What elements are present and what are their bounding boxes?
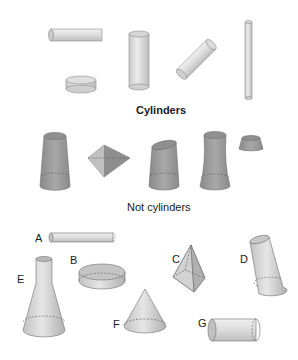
cylinder-tilted <box>175 38 218 81</box>
oblique-cut-cylinder-dark <box>149 138 179 190</box>
shape-f-cone <box>124 289 166 333</box>
cylinders-heading: Cylinders <box>136 104 186 116</box>
shape-e-flask <box>23 257 65 338</box>
label-f: F <box>113 318 120 330</box>
label-c: C <box>172 253 180 265</box>
label-g: G <box>198 317 207 329</box>
label-b: B <box>70 254 77 266</box>
waisted-cylinder-dark <box>200 132 230 191</box>
shape-b-disc <box>79 264 125 289</box>
bipyramid-dark <box>88 145 130 177</box>
label-a: A <box>35 232 42 244</box>
label-e: E <box>17 273 24 285</box>
label-d: D <box>240 253 248 265</box>
not-cylinders-heading: Not cylinders <box>127 201 191 213</box>
small-frustum-dark <box>239 136 263 151</box>
shape-d-tilted-frustum <box>249 234 287 296</box>
shapes-canvas <box>0 0 298 360</box>
cylinder-horizontal <box>49 29 103 41</box>
cylinder-disc <box>66 76 96 93</box>
shape-g-cylinder <box>208 319 260 341</box>
cylinder-vertical <box>129 31 149 90</box>
shape-a-long-cylinder <box>49 233 115 242</box>
frustum-dark <box>40 133 70 191</box>
cylinder-thin-vertical <box>245 21 252 100</box>
